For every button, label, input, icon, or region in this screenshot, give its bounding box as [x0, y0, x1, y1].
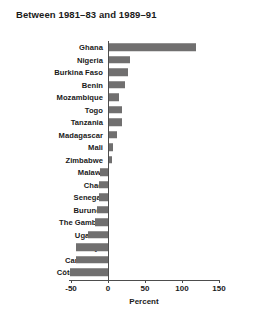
bar: [108, 94, 119, 102]
bar: [108, 69, 128, 77]
category-label: Benin: [82, 80, 103, 89]
bar: [95, 219, 108, 227]
bar-row: Benin: [0, 79, 261, 92]
bar: [108, 56, 130, 64]
category-label: Madagascar: [59, 130, 103, 139]
category-label: Zimbabwe: [65, 155, 103, 164]
bar-row: Zimbabwe: [0, 154, 261, 167]
bar-row: Mozambique: [0, 91, 261, 104]
category-label: Mali: [88, 143, 103, 152]
bar: [70, 269, 108, 277]
category-label: Mozambique: [57, 93, 104, 102]
bar: [88, 231, 108, 239]
bar-row: Uganda: [0, 229, 261, 242]
bar: [108, 44, 196, 52]
bar-row: Burundi: [0, 204, 261, 217]
x-tick-mark: [145, 280, 146, 283]
x-tick-mark: [219, 280, 220, 283]
bar-row: Senegal: [0, 191, 261, 204]
x-tick-label: -50: [65, 284, 77, 293]
bar: [108, 106, 122, 114]
bar: [76, 244, 108, 252]
x-tick-label: 100: [175, 284, 188, 293]
x-tick-label: 150: [212, 284, 225, 293]
x-tick-label: 0: [106, 284, 110, 293]
bar: [108, 119, 122, 127]
zero-axis-line: [108, 41, 109, 280]
bar: [99, 181, 108, 189]
bar-row: Kenya: [0, 241, 261, 254]
bar-row: Togo: [0, 104, 261, 117]
category-label: Tanzania: [71, 118, 103, 127]
bar-rows: GhanaNigeriaBurkina FasoBeninMozambiqueT…: [0, 41, 261, 279]
category-label: Ghana: [79, 43, 103, 52]
bar: [97, 206, 108, 214]
plot-area: GhanaNigeriaBurkina FasoBeninMozambiqueT…: [0, 41, 261, 279]
bar: [108, 81, 125, 89]
x-tick-mark: [108, 280, 109, 283]
bar: [100, 169, 108, 177]
bar: [108, 131, 117, 139]
chart-title: Between 1981–83 and 1989–91: [16, 9, 157, 20]
bar-row: Chad: [0, 179, 261, 192]
bar-row: The Gambia: [0, 216, 261, 229]
bar-chart: Between 1981–83 and 1989–91 GhanaNigeria…: [0, 0, 261, 309]
bar-row: Nigeria: [0, 54, 261, 67]
bar-row: Mali: [0, 141, 261, 154]
bar-row: Ghana: [0, 41, 261, 54]
x-tick-mark: [182, 280, 183, 283]
bar-row: Malawi: [0, 166, 261, 179]
bar: [99, 194, 108, 202]
category-label: Togo: [85, 105, 103, 114]
bar-row: Burkina Faso: [0, 66, 261, 79]
x-axis-title: Percent: [129, 297, 158, 306]
x-tick-label: 50: [141, 284, 150, 293]
bar-row: Madagascar: [0, 129, 261, 142]
x-axis-line: [69, 280, 219, 281]
bar: [76, 256, 108, 264]
category-label: Burkina Faso: [54, 68, 103, 77]
bar-row: Tanzania: [0, 116, 261, 129]
x-tick-mark: [71, 280, 72, 283]
category-label: Nigeria: [77, 55, 103, 64]
bar-row: Cameroon: [0, 254, 261, 267]
bar-row: Côte d'Ivoire: [0, 266, 261, 279]
